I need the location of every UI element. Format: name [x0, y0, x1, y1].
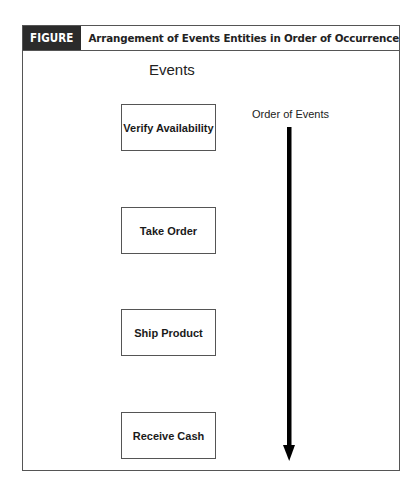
- figure-header: FIGURE 10-5 Arrangement of Events Entiti…: [23, 26, 399, 51]
- event-label: Ship Product: [134, 327, 202, 339]
- down-arrow-icon: [282, 127, 296, 462]
- figure-title: Arrangement of Events Entities in Order …: [81, 26, 399, 50]
- events-column-label: Events: [149, 61, 195, 78]
- event-box-take-order: Take Order: [121, 207, 216, 254]
- event-box-ship-product: Ship Product: [121, 309, 216, 356]
- event-label: Verify Availability: [123, 122, 213, 134]
- figure-frame: FIGURE 10-5 Arrangement of Events Entiti…: [22, 25, 400, 471]
- order-of-events-label: Order of Events: [252, 108, 329, 120]
- event-label: Receive Cash: [133, 430, 205, 442]
- event-box-verify-availability: Verify Availability: [121, 104, 216, 151]
- figure-number-label: FIGURE 10-5: [23, 26, 81, 50]
- event-label: Take Order: [140, 225, 197, 237]
- event-box-receive-cash: Receive Cash: [121, 412, 216, 459]
